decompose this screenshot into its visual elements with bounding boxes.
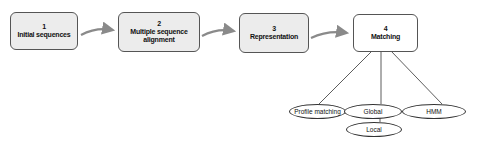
arrow-3-to-4	[311, 32, 347, 38]
step-number: 4	[384, 25, 388, 33]
arrow-2-to-3	[202, 30, 234, 36]
method-global: Global	[344, 104, 402, 119]
method-label: Local	[366, 126, 382, 133]
step-matching: 4 Matching	[353, 14, 418, 52]
link-matching-profile	[319, 51, 372, 104]
step-label: Matching	[371, 33, 400, 41]
method-label: Global	[364, 108, 383, 115]
step-initial-sequences: 1 Initial sequences	[10, 12, 78, 50]
arrow-1-to-2	[81, 29, 113, 35]
link-matching-hmm	[391, 51, 442, 104]
method-label: HMM	[426, 108, 442, 115]
step-number: 1	[42, 23, 46, 31]
method-local: Local	[346, 122, 402, 137]
method-profile-matching: Profile matching	[289, 104, 346, 119]
step-multiple-sequence-alignment: 2 Multiple sequence alignment	[118, 12, 200, 52]
step-representation: 3 Representation	[239, 13, 309, 53]
method-label: Profile matching	[294, 108, 341, 115]
method-hmm: HMM	[402, 104, 466, 119]
step-label: Multiple sequence alignment	[119, 28, 199, 44]
step-label: Initial sequences	[17, 31, 70, 39]
step-number: 3	[272, 25, 276, 33]
step-label: Representation	[250, 33, 298, 41]
step-number: 2	[157, 20, 161, 28]
